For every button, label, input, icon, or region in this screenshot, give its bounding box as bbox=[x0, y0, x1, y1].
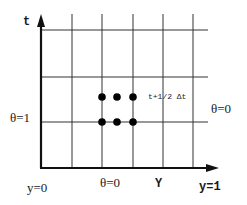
origin-label: y=0 bbox=[27, 181, 47, 194]
vertical-grid-lines bbox=[72, 14, 193, 168]
stencil-dot bbox=[129, 118, 137, 126]
t-axis-arrowhead-icon bbox=[37, 14, 45, 27]
stencil-dot bbox=[129, 93, 137, 101]
right-boundary-label: θ=0 bbox=[211, 102, 231, 115]
t-axis-label: t bbox=[23, 16, 30, 28]
end-label: y=1 bbox=[199, 181, 221, 193]
stencil-dot bbox=[98, 93, 106, 101]
half-step-annotation: t+1/2 Δt bbox=[148, 93, 186, 101]
horizontal-grid-lines bbox=[41, 30, 208, 122]
grid-diagram bbox=[0, 0, 247, 205]
stencil-dot bbox=[113, 93, 121, 101]
bottom-boundary-label: θ=0 bbox=[100, 176, 120, 189]
stencil-points bbox=[98, 93, 137, 126]
stencil-dot bbox=[98, 118, 106, 126]
y-axis-label: Y bbox=[155, 178, 162, 190]
y-axis-arrowhead-icon bbox=[206, 164, 219, 172]
stencil-dot bbox=[113, 118, 121, 126]
left-boundary-label: θ=1 bbox=[10, 111, 30, 124]
